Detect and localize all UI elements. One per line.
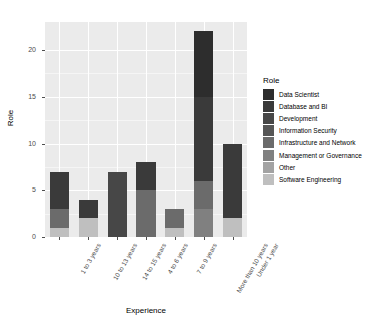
y-tick-mark (42, 97, 45, 98)
bar-segment (194, 31, 213, 96)
x-tick-mark (59, 237, 60, 240)
bar-segment (165, 209, 184, 228)
legend-item: Software Engineering (258, 173, 386, 185)
legend-swatch (263, 113, 274, 124)
legend: Role Data ScientistDatabase and BIDevelo… (258, 76, 386, 186)
x-tick-label: 1 to 3 years (79, 242, 103, 275)
legend-label: Management or Governance (279, 152, 362, 159)
x-tick-label: 4 to 6 years (166, 242, 190, 275)
bar-stack (108, 22, 127, 237)
bar-segment (136, 162, 155, 190)
bar-segment (223, 218, 242, 237)
legend-swatch (263, 101, 274, 112)
legend-item: Management or Governance (258, 149, 386, 161)
y-axis-title: Role (6, 110, 15, 126)
y-tick-label: 20 (20, 46, 36, 54)
bar-stack (194, 22, 213, 237)
x-tick-mark (146, 237, 147, 240)
bar-segment (194, 209, 213, 237)
legend-items: Data ScientistDatabase and BIDevelopment… (258, 88, 386, 186)
legend-swatch (263, 174, 274, 185)
y-tick-mark (42, 144, 45, 145)
bar-stack (50, 22, 69, 237)
legend-swatch (263, 162, 274, 173)
legend-label: Data Scientist (279, 91, 319, 98)
y-tick-label: 0 (20, 233, 36, 241)
legend-label: Database and BI (279, 103, 327, 110)
legend-label: Other (279, 164, 295, 171)
bar-segment (50, 209, 69, 228)
legend-swatch (263, 150, 274, 161)
bar-segment (165, 228, 184, 237)
legend-swatch (263, 137, 274, 148)
legend-item: Database and BI (258, 100, 386, 112)
stacked-bar-chart: 05101520 Role 1 to 3 years10 to 13 years… (0, 0, 388, 333)
legend-item: Information Security (258, 125, 386, 137)
legend-item: Data Scientist (258, 88, 386, 100)
legend-swatch (263, 125, 274, 136)
x-tick-label: 10 to 13 years (112, 242, 140, 282)
legend-label: Information Security (279, 127, 337, 134)
x-tick-mark (233, 237, 234, 240)
legend-item: Development (258, 112, 386, 124)
x-tick-mark (117, 237, 118, 240)
bar-segment (50, 228, 69, 237)
y-tick-label: 10 (20, 140, 36, 148)
bar-stack (79, 22, 98, 237)
bar-segment (136, 190, 155, 237)
bar-segment (50, 172, 69, 209)
legend-item: Infrastructure and Network (258, 137, 386, 149)
y-tick-mark (42, 50, 45, 51)
x-tick-label: 14 to 15 years (141, 242, 169, 282)
legend-label: Software Engineering (279, 176, 341, 183)
legend-title: Role (263, 76, 386, 85)
bar-segment (79, 200, 98, 219)
bar-stack (223, 22, 242, 237)
bar-segment (194, 181, 213, 209)
bar-stack (165, 22, 184, 237)
legend-label: Infrastructure and Network (279, 139, 356, 146)
legend-item: Other (258, 161, 386, 173)
y-tick-label: 5 (20, 186, 36, 194)
x-tick-label: 7 to 9 years (195, 242, 219, 275)
bar-segment (79, 218, 98, 237)
bar-stack (136, 22, 155, 237)
y-tick-mark (42, 237, 45, 238)
x-axis-title: Experience (45, 306, 247, 315)
bar-segment (108, 172, 127, 237)
plot-panel (45, 22, 247, 237)
bar-segment (194, 97, 213, 181)
x-tick-mark (204, 237, 205, 240)
y-tick-mark (42, 190, 45, 191)
legend-label: Development (279, 115, 317, 122)
y-tick-label: 15 (20, 93, 36, 101)
x-tick-mark (88, 237, 89, 240)
x-tick-mark (175, 237, 176, 240)
legend-swatch (263, 89, 274, 100)
bar-segment (223, 144, 242, 219)
